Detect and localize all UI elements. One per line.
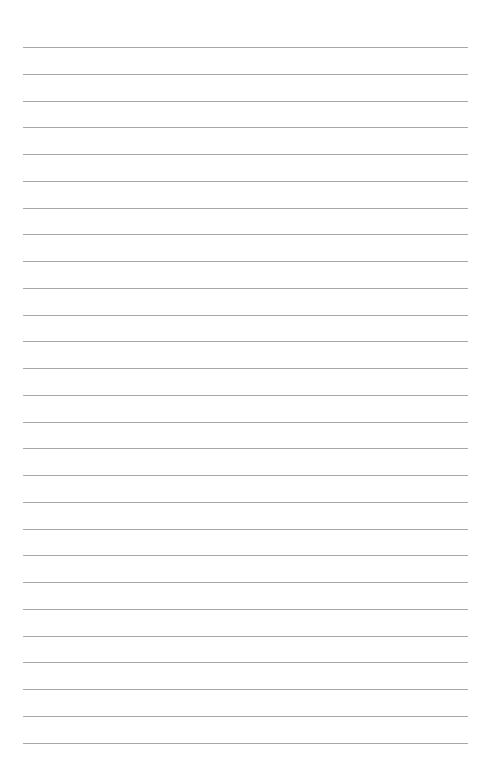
ruled-line [23, 234, 468, 235]
ruled-line [23, 716, 468, 717]
ruled-line [23, 743, 468, 744]
ruled-line [23, 315, 468, 316]
ruled-line [23, 74, 468, 75]
ruled-line [23, 529, 468, 530]
ruled-line [23, 689, 468, 690]
ruled-line [23, 181, 468, 182]
ruled-line [23, 368, 468, 369]
ruled-line [23, 502, 468, 503]
ruled-line [23, 662, 468, 663]
ruled-line [23, 475, 468, 476]
lined-paper-page [0, 0, 493, 767]
ruled-line [23, 555, 468, 556]
ruled-line [23, 422, 468, 423]
ruled-line [23, 395, 468, 396]
ruled-line [23, 636, 468, 637]
ruled-line [23, 127, 468, 128]
ruled-line [23, 582, 468, 583]
ruled-line [23, 288, 468, 289]
ruled-line [23, 261, 468, 262]
ruled-line [23, 47, 468, 48]
ruled-line [23, 448, 468, 449]
ruled-line [23, 154, 468, 155]
ruled-line [23, 609, 468, 610]
ruled-line [23, 208, 468, 209]
ruled-line [23, 341, 468, 342]
ruled-line [23, 101, 468, 102]
